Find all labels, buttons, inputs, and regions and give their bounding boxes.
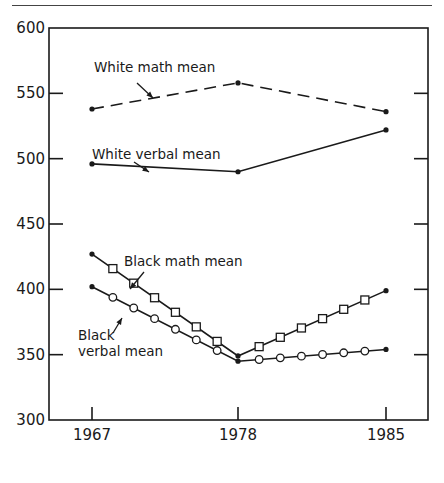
y-tick-label: 300 bbox=[16, 411, 45, 429]
annotation-black-verbal-2: verbal mean bbox=[78, 343, 163, 359]
y-tick-label: 400 bbox=[16, 280, 45, 298]
x-tick-label: 1967 bbox=[73, 426, 111, 444]
y-tick-label: 350 bbox=[16, 346, 45, 364]
annotation-white-verbal: White verbal mean bbox=[92, 146, 221, 162]
x-axis: 196719781985 bbox=[73, 407, 405, 444]
x-tick-label: 1985 bbox=[367, 426, 405, 444]
y-tick-label: 500 bbox=[16, 150, 45, 168]
annotation-black-verbal-1: Black bbox=[78, 327, 115, 343]
series-group bbox=[89, 80, 388, 364]
y-tick-label: 550 bbox=[16, 84, 45, 102]
annotation-white-math: White math mean bbox=[94, 59, 215, 75]
y-tick-label: 600 bbox=[16, 19, 45, 37]
annotations: White math mean White verbal mean Black … bbox=[78, 59, 243, 359]
y-axis: 600550500450400350300 bbox=[16, 19, 428, 429]
series-white-math-mean bbox=[89, 80, 388, 114]
x-tick-label: 1978 bbox=[219, 426, 257, 444]
annotation-black-math: Black math mean bbox=[124, 253, 243, 269]
line-chart: 600550500450400350300 196719781985 White… bbox=[0, 0, 444, 483]
y-tick-label: 450 bbox=[16, 215, 45, 233]
